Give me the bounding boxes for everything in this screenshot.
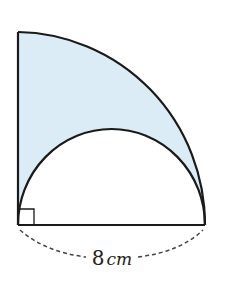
dimension-dashed-arc-left xyxy=(20,230,86,257)
geometry-figure: 8cm xyxy=(0,0,225,289)
dimension-value: 8 xyxy=(92,246,105,270)
dimension-dashed-arc-right xyxy=(138,230,203,257)
dimension-unit: cm xyxy=(107,249,133,269)
dimension-label: 8cm xyxy=(92,246,132,270)
right-angle-marker xyxy=(18,209,34,225)
